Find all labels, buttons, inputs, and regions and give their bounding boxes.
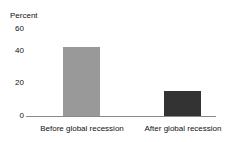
bar-after-global-recession — [164, 91, 201, 116]
y-axis-title: Percent — [10, 11, 38, 20]
y-axis-tick-20: 20 — [2, 78, 24, 87]
clipped-title-remnant — [30, 0, 190, 4]
x-axis-baseline — [26, 116, 216, 117]
bar-chart: Percent 60 40 20 0 Before global recessi… — [0, 0, 241, 142]
y-axis-tick-40: 40 — [2, 46, 24, 55]
y-axis-tick-60: 60 — [2, 24, 24, 33]
x-axis-label-before: Before global recession — [26, 124, 138, 133]
x-axis-label-after: After global recession — [137, 124, 229, 133]
bar-before-global-recession — [63, 47, 100, 116]
y-axis-tick-0: 0 — [2, 111, 24, 120]
